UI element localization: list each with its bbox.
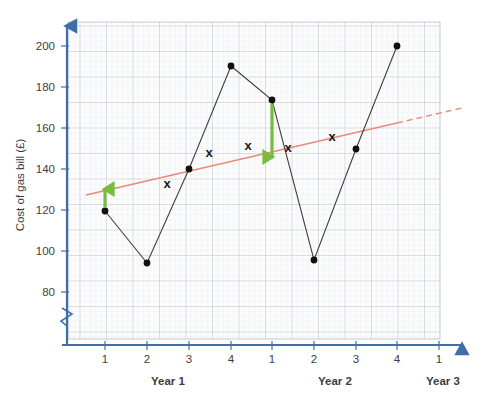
x-tick-label-y2q2: 2 (311, 353, 317, 365)
period-label-year-2: Year 2 (318, 375, 352, 387)
data-point-y2q2 (311, 257, 318, 264)
data-point-y1q2 (144, 260, 151, 267)
data-point-y2q4 (394, 43, 401, 50)
y-tick-label-140: 140 (36, 163, 55, 175)
y-tick-label-120: 120 (36, 204, 55, 216)
x-tick-label-y2q4: 4 (394, 353, 401, 365)
trend-x-marker-1: x (205, 145, 213, 160)
x-tick-label-y1q3: 3 (186, 353, 192, 365)
y-tick-label-80: 80 (42, 286, 55, 298)
trend-x-marker-3: x (284, 140, 292, 155)
y-axis-title: Cost of gas bill (£) (14, 138, 26, 231)
y-tick-label-160: 160 (36, 122, 55, 134)
data-point-y1q4 (228, 63, 235, 70)
plot-grid (68, 22, 440, 339)
y-tick-label-200: 200 (36, 40, 55, 52)
x-tick-label-y3q1: 1 (436, 353, 442, 365)
y-tick-label-100: 100 (36, 245, 55, 257)
period-label-year-1: Year 1 (151, 375, 185, 387)
x-axis-tick-labels: 1 2 3 4 1 2 3 4 1 (102, 353, 442, 365)
data-point-y1q3 (186, 166, 193, 173)
data-point-y2q1 (269, 97, 276, 104)
x-tick-label-y2q3: 3 (353, 353, 359, 365)
y-tick-label-180: 180 (36, 81, 55, 93)
x-tick-label-y1q2: 2 (144, 353, 150, 365)
trend-x-marker-4: x (328, 129, 336, 144)
data-point-y1q1 (102, 208, 109, 215)
data-point-y2q3 (353, 146, 360, 153)
trend-x-marker-2: x (244, 138, 252, 153)
x-tick-label-y1q1: 1 (102, 353, 108, 365)
x-tick-label-y1q4: 4 (228, 353, 235, 365)
period-label-year-3: Year 3 (426, 375, 460, 387)
x-tick-label-y2q1: 1 (269, 353, 275, 365)
gas-bill-line-chart: 200 180 160 140 120 100 80 Cost of gas b… (0, 0, 486, 403)
y-axis-tick-labels: 200 180 160 140 120 100 80 (36, 40, 55, 298)
chart-container: 200 180 160 140 120 100 80 Cost of gas b… (0, 0, 486, 403)
trend-x-marker-0: x (163, 176, 171, 191)
x-axis-period-labels: Year 1 Year 2 Year 3 (151, 375, 460, 387)
